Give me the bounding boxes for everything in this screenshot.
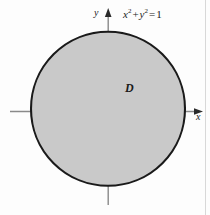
- y-axis-label: y: [94, 8, 98, 18]
- figure-container: y x D x2+y2=1: [0, 0, 210, 215]
- equation-right-hand-side: 1: [156, 8, 162, 20]
- page-edge-rule: [205, 0, 206, 215]
- equation-plus-operator: +: [131, 8, 139, 20]
- equation-equals-operator: =: [148, 8, 156, 20]
- unit-circle-region: [31, 32, 185, 186]
- y-axis-arrow-icon: [105, 8, 112, 17]
- curve-equation-label: x2+y2=1: [123, 9, 162, 20]
- unit-disk-diagram: [0, 0, 210, 215]
- x-axis-label: x: [196, 112, 200, 122]
- region-label-d: D: [125, 82, 134, 94]
